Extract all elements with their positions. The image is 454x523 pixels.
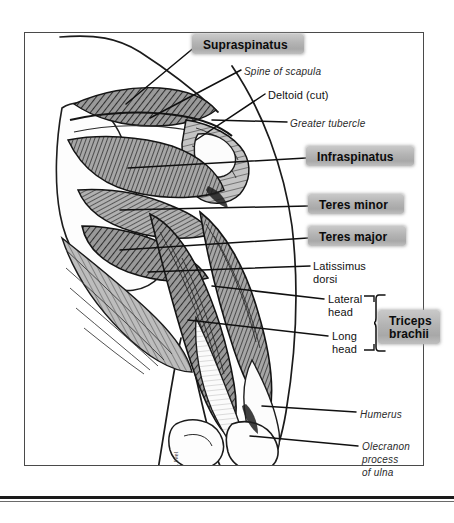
label-supraspinatus: Supraspinatus xyxy=(196,36,295,56)
label-teres-minor: Teres minor xyxy=(312,196,395,216)
page-divider-thick xyxy=(0,496,454,499)
artist-signature: M. Ivel xyxy=(172,451,180,472)
label-latissimus-dorsi: Latissimus dorsi xyxy=(313,260,366,286)
label-spine-of-scapula: Spine of scapula xyxy=(244,65,321,78)
label-long-head: Long head xyxy=(332,330,357,356)
anatomy-figure: M. Ivel xyxy=(0,0,454,523)
label-humerus: Humerus xyxy=(360,408,402,421)
leader-humerus xyxy=(262,406,356,412)
label-infraspinatus: Infraspinatus xyxy=(310,148,401,168)
label-lateral-head: Lateral head xyxy=(328,293,362,319)
label-olecranon-process-of-ulna: Olecranon process of ulna xyxy=(362,440,410,479)
label-greater-tubercle: Greater tubercle xyxy=(290,117,365,130)
page-divider-thin xyxy=(0,501,454,502)
brace-ticks xyxy=(362,294,378,352)
label-triceps-brachii: Triceps brachii xyxy=(382,312,439,345)
label-teres-major: Teres major xyxy=(312,228,394,248)
label-deltoid-cut: Deltoid (cut) xyxy=(268,89,329,102)
